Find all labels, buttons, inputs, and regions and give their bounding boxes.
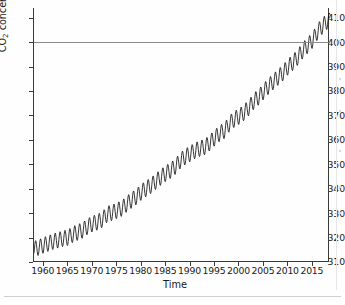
page-speck bbox=[339, 40, 341, 42]
x-tick-mark bbox=[238, 262, 239, 266]
x-tick-mark bbox=[141, 262, 142, 266]
reference-line-400ppm bbox=[34, 42, 329, 43]
y-axis-title-prefix: CO bbox=[0, 38, 8, 52]
plot-area bbox=[34, 8, 328, 261]
x-axis-title: Time bbox=[0, 279, 345, 290]
x-axis-title-label: Time bbox=[163, 279, 187, 290]
x-tick-mark bbox=[116, 262, 117, 266]
co2-data-line bbox=[34, 13, 330, 255]
page-rule-divider bbox=[4, 296, 341, 297]
page-speck bbox=[339, 186, 341, 188]
page-speck bbox=[339, 110, 341, 112]
figure-container: CO2 concentration (ppm) 3103203303403503… bbox=[0, 0, 345, 305]
co2-line-chart bbox=[34, 8, 330, 262]
x-tick-mark bbox=[312, 262, 313, 266]
x-tick-mark bbox=[92, 262, 93, 266]
page-speck bbox=[339, 212, 341, 214]
y-axis-title: CO2 concentration (ppm) bbox=[0, 0, 10, 72]
y-axis-title-suffix: concentration (ppm) bbox=[0, 0, 8, 33]
y-axis-title-subscript: 2 bbox=[2, 33, 10, 37]
x-tick-label: 2015 bbox=[295, 266, 329, 275]
x-tick-mark bbox=[287, 262, 288, 266]
x-tick-mark bbox=[263, 262, 264, 266]
x-tick-mark bbox=[43, 262, 44, 266]
x-tick-mark bbox=[214, 262, 215, 266]
x-tick-mark bbox=[165, 262, 166, 266]
x-tick-mark bbox=[190, 262, 191, 266]
page-edge-artifact bbox=[336, 0, 337, 290]
page-speck bbox=[339, 78, 341, 80]
x-tick-mark bbox=[67, 262, 68, 266]
plot-frame bbox=[33, 8, 329, 262]
y-tick-mark bbox=[29, 262, 33, 263]
page-speck bbox=[339, 150, 341, 152]
